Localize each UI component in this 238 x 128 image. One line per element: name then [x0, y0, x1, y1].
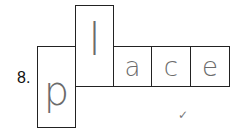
letter-p: p	[44, 71, 69, 111]
letter-l: l	[88, 18, 100, 62]
letter-c: c	[164, 54, 178, 80]
letter-box-e: e	[190, 46, 230, 87]
letter-box-c: c	[151, 46, 191, 87]
checkmark-icon: ✓	[178, 108, 188, 122]
letter-box-a: a	[113, 46, 152, 87]
letter-box-l: l	[75, 5, 114, 87]
letter-box-p: p	[37, 46, 76, 128]
letter-a: a	[125, 54, 141, 80]
letter-e: e	[202, 54, 218, 80]
question-number: 8.	[17, 70, 30, 86]
